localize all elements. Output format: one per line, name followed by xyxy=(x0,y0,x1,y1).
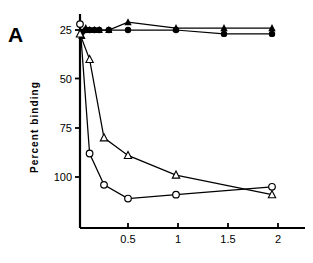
data-point-filled-circle xyxy=(221,31,227,37)
y-tick-label: 25 xyxy=(60,24,72,36)
data-point-open-circle xyxy=(86,150,93,157)
data-point-open-circle xyxy=(173,191,180,198)
data-point-open-circle xyxy=(101,182,108,189)
series-open-triangles xyxy=(76,30,275,198)
x-tick-label: 2 xyxy=(275,233,281,245)
y-tick-label: 75 xyxy=(60,122,72,134)
y-tick-label: 50 xyxy=(60,73,72,85)
x-tick-label: 1 xyxy=(175,233,181,245)
x-tick-label: 0.5 xyxy=(120,233,135,245)
data-point-open-circle xyxy=(77,21,84,28)
data-point-filled-triangle xyxy=(124,18,131,25)
data-point-filled-circle xyxy=(125,27,131,33)
y-tick-label: 100 xyxy=(54,171,72,183)
data-point-open-triangle xyxy=(124,151,131,158)
data-point-filled-circle xyxy=(269,31,275,37)
x-tick-group: 0.511.52 xyxy=(120,223,281,245)
plot-area: 1007550250.511.52 xyxy=(0,0,313,263)
y-tick-group: 100755025 xyxy=(54,24,80,183)
x-tick-label: 1.5 xyxy=(220,233,235,245)
figure-panel-a: A Percent binding 1007550250.511.52 xyxy=(0,0,313,263)
data-point-open-triangle xyxy=(86,55,93,62)
data-point-open-circle xyxy=(125,195,132,202)
data-point-open-triangle xyxy=(100,134,107,141)
series-filled-triangles xyxy=(78,18,275,39)
data-point-open-circle xyxy=(269,184,276,191)
